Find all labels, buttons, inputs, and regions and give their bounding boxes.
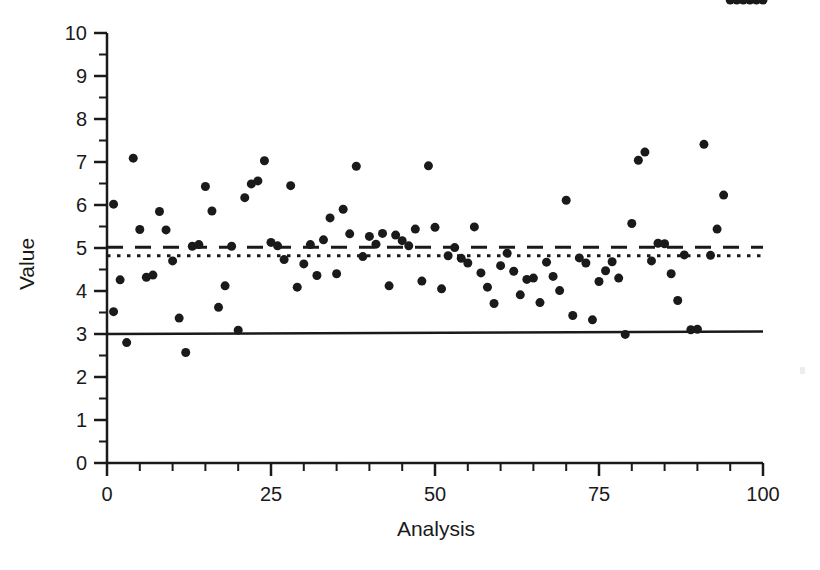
data-point <box>463 259 472 268</box>
data-point <box>634 156 643 165</box>
data-point <box>719 191 728 200</box>
y-tick-label: 4 <box>76 280 87 302</box>
data-point <box>614 274 623 283</box>
data-point <box>581 259 590 268</box>
data-point <box>234 326 243 335</box>
data-point <box>253 176 262 185</box>
data-point <box>647 256 656 265</box>
data-point <box>667 269 676 278</box>
data-point <box>365 232 374 241</box>
y-axis-title: Value <box>15 238 38 290</box>
data-point <box>273 241 282 250</box>
data-point <box>588 315 597 324</box>
data-point <box>280 255 289 264</box>
data-point <box>162 225 171 234</box>
data-point <box>155 207 164 216</box>
data-point <box>168 256 177 265</box>
data-point <box>424 161 433 170</box>
data-point <box>148 271 157 280</box>
data-point <box>640 148 649 157</box>
data-point <box>181 348 190 357</box>
y-tick-label: 10 <box>65 22 87 44</box>
data-point <box>345 229 354 238</box>
data-point <box>549 272 558 281</box>
x-tick-label: 50 <box>424 483 446 505</box>
y-tick-label: 8 <box>76 108 87 130</box>
data-point <box>555 286 564 295</box>
data-point <box>339 205 348 214</box>
data-point <box>627 219 636 228</box>
data-point <box>411 225 420 234</box>
data-point <box>214 303 223 312</box>
data-point <box>352 162 361 171</box>
y-tick-label: 0 <box>76 452 87 474</box>
data-point <box>601 266 610 275</box>
data-point <box>240 193 249 202</box>
data-point <box>542 258 551 267</box>
data-point <box>175 314 184 323</box>
data-point <box>673 296 682 305</box>
x-tick-label: 100 <box>746 483 779 505</box>
data-point <box>109 307 118 316</box>
data-point <box>431 223 440 232</box>
data-point <box>516 290 525 299</box>
data-point <box>221 281 230 290</box>
data-point <box>385 281 394 290</box>
x-tick-label: 25 <box>260 483 282 505</box>
data-point <box>194 240 203 249</box>
data-point <box>260 156 269 165</box>
data-point <box>621 330 630 339</box>
data-point <box>116 275 125 284</box>
x-tick-label: 75 <box>588 483 610 505</box>
data-point <box>490 299 499 308</box>
x-axis-title: Analysis <box>397 517 475 540</box>
data-point <box>312 271 321 280</box>
data-point <box>608 257 617 266</box>
data-point <box>476 268 485 277</box>
data-point <box>693 325 702 334</box>
y-tick-label: 7 <box>76 151 87 173</box>
data-point <box>378 229 387 238</box>
data-point <box>293 283 302 292</box>
chart-background <box>0 0 820 570</box>
data-point <box>706 251 715 260</box>
data-point <box>444 251 453 260</box>
data-point <box>227 242 236 251</box>
data-point <box>201 182 210 191</box>
chart-page: 0255075100 012345678910 Analysis Value <box>0 0 820 570</box>
data-point <box>417 277 426 286</box>
data-point <box>332 269 341 278</box>
data-point <box>699 140 708 149</box>
data-point <box>129 154 138 163</box>
scatter-chart: 0255075100 012345678910 Analysis Value <box>0 0 820 570</box>
data-point <box>109 200 118 209</box>
data-point <box>713 225 722 234</box>
data-point <box>450 243 459 252</box>
data-point <box>306 240 315 249</box>
x-tick-label: 0 <box>101 483 112 505</box>
y-tick-label: 6 <box>76 194 87 216</box>
data-point <box>509 267 518 276</box>
data-point <box>135 225 144 234</box>
data-point <box>207 207 216 216</box>
data-point <box>496 261 505 270</box>
data-point <box>470 222 479 231</box>
y-tick-label: 5 <box>76 237 87 259</box>
data-point <box>483 283 492 292</box>
data-point <box>595 277 604 286</box>
data-point <box>122 338 131 347</box>
y-tick-label: 2 <box>76 366 87 388</box>
data-point <box>680 250 689 259</box>
data-point <box>371 240 380 249</box>
data-point <box>562 196 571 205</box>
y-tick-label: 9 <box>76 65 87 87</box>
data-point <box>404 241 413 250</box>
data-point <box>529 274 538 283</box>
y-tick-label: 3 <box>76 323 87 345</box>
data-point <box>503 249 512 258</box>
data-point <box>319 235 328 244</box>
scan-artifact <box>800 367 805 374</box>
y-tick-label: 1 <box>76 409 87 431</box>
data-point <box>535 298 544 307</box>
data-point <box>326 213 335 222</box>
